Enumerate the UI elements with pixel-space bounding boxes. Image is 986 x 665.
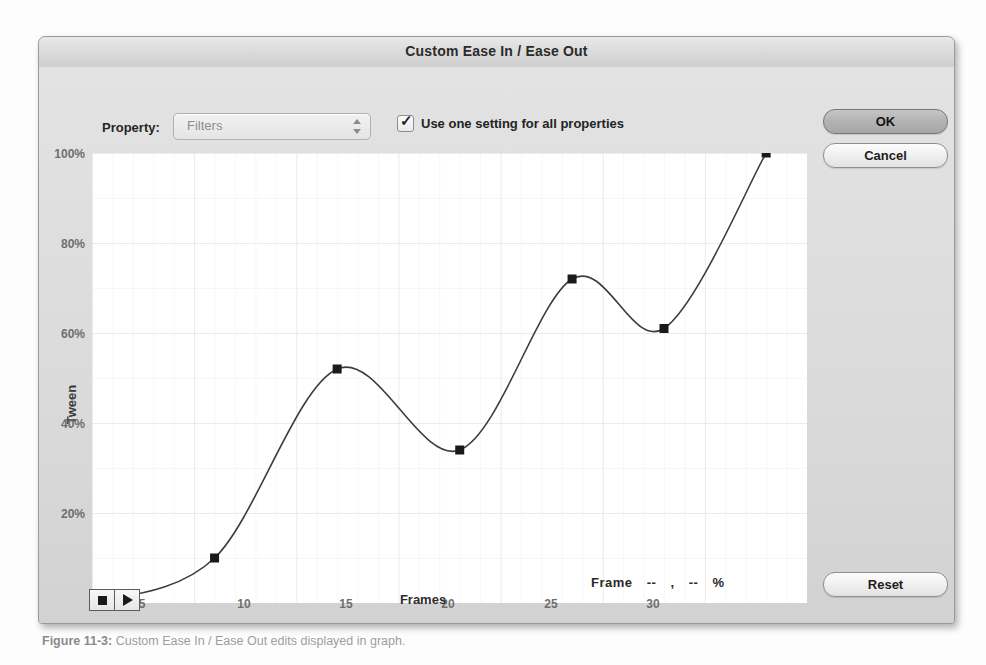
dialog-titlebar: Custom Ease In / Ease Out (39, 37, 954, 68)
major-gridlines (92, 153, 807, 603)
control-point[interactable] (762, 153, 771, 158)
ok-button[interactable]: OK (823, 109, 948, 134)
figure-caption-text: Custom Ease In / Ease Out edits displaye… (116, 634, 406, 648)
control-point[interactable] (568, 275, 577, 284)
frame-readout-sign: % (713, 575, 725, 590)
control-point[interactable] (660, 324, 669, 333)
control-point[interactable] (455, 446, 464, 455)
checkmark-icon: ✓ (400, 113, 413, 128)
frame-readout-prefix: Frame (591, 575, 633, 590)
checkbox-label: Use one setting for all properties (421, 116, 624, 131)
custom-ease-dialog: Custom Ease In / Ease Out Property: Filt… (38, 36, 955, 624)
chevron-down-icon (353, 129, 361, 134)
figure-number: Figure 11-3: (42, 634, 112, 648)
y-tick-20: 20% (39, 507, 85, 521)
dialog-title: Custom Ease In / Ease Out (39, 43, 954, 59)
checkbox-box[interactable]: ✓ (397, 115, 414, 132)
frame-readout-percent: -- (689, 575, 699, 590)
control-point[interactable] (333, 365, 342, 374)
use-one-setting-checkbox[interactable]: ✓ Use one setting for all properties (397, 115, 624, 132)
y-axis-label: Tween (64, 365, 79, 445)
dialog-body: Property: Filters ✓ Use one setting for … (39, 67, 954, 623)
property-select[interactable]: Filters (173, 113, 371, 140)
control-point[interactable] (210, 554, 219, 563)
y-tick-80: 80% (39, 237, 85, 251)
x-axis-label: Frames (39, 592, 807, 607)
property-label: Property: (102, 120, 160, 135)
stepper-arrows-icon[interactable] (353, 117, 363, 136)
tween-curve-svg[interactable] (92, 153, 807, 603)
reset-button[interactable]: Reset (823, 572, 948, 597)
property-select-value: Filters (187, 118, 222, 133)
chevron-up-icon (353, 119, 361, 124)
y-tick-60: 60% (39, 327, 85, 341)
frame-readout-comma: , (670, 575, 674, 590)
cancel-button[interactable]: Cancel (823, 143, 948, 168)
tween-graph[interactable] (92, 153, 807, 603)
page-root: Custom Ease In / Ease Out Property: Filt… (0, 0, 986, 665)
frame-readout-value: -- (647, 575, 657, 590)
y-tick-40: 40% (39, 417, 85, 431)
frame-readout: Frame -- , -- % (591, 575, 735, 590)
figure-caption: Figure 11-3: Custom Ease In / Ease Out e… (42, 634, 405, 648)
y-tick-100: 100% (39, 147, 85, 161)
